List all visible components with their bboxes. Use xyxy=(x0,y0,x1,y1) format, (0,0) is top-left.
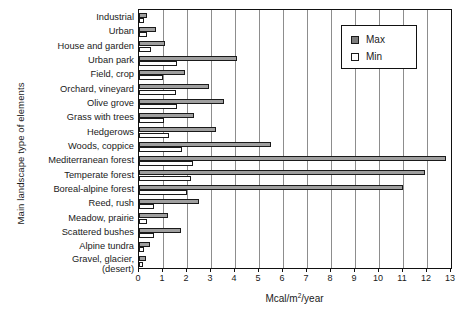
bar-min xyxy=(139,176,191,181)
bar-min xyxy=(139,75,163,80)
bar-min xyxy=(139,233,154,238)
x-tick-label: 10 xyxy=(366,273,390,283)
x-axis-title-text: Mcal/m2/year xyxy=(265,293,323,304)
x-tick xyxy=(354,268,355,272)
x-axis: 012345678910111213 xyxy=(138,268,451,290)
category-label: Industrial xyxy=(16,12,134,22)
category-label-line: Meadow, prairie xyxy=(68,213,134,223)
bar-max xyxy=(139,70,185,75)
legend-item-min: Min xyxy=(351,48,416,65)
bar-max xyxy=(139,156,446,161)
bar-max xyxy=(139,142,271,147)
x-tick-label: 7 xyxy=(294,273,318,283)
category-label: Gravel, glacier,(desert) xyxy=(16,254,134,274)
legend-label-max: Max xyxy=(366,34,385,45)
bar-max xyxy=(139,228,181,233)
category-label: Boreal-alpine forest xyxy=(16,184,134,194)
bar-min xyxy=(139,161,193,166)
x-tick xyxy=(186,268,187,272)
x-tick-label: 6 xyxy=(270,273,294,283)
category-label-line: Alpine tundra xyxy=(79,241,134,251)
bar-min xyxy=(139,133,169,138)
category-label-line: (desert) xyxy=(16,264,134,274)
x-tick xyxy=(306,268,307,272)
bar-min xyxy=(139,32,147,37)
bar-max xyxy=(139,56,237,61)
x-tick xyxy=(426,268,427,272)
category-label-line: House and garden xyxy=(58,41,135,51)
category-label: Orchard, vineyard xyxy=(16,84,134,94)
category-label-line: Temperate forest xyxy=(64,170,134,180)
category-label-line: Woods, coppice xyxy=(68,141,134,151)
bar-min xyxy=(139,90,176,95)
x-tick xyxy=(234,268,235,272)
bar-min xyxy=(139,219,147,224)
x-tick xyxy=(258,268,259,272)
x-tick-label: 1 xyxy=(150,273,174,283)
x-tick-label: 13 xyxy=(438,273,462,283)
x-tick xyxy=(138,268,139,272)
bar-min xyxy=(139,247,144,252)
x-tick-label: 4 xyxy=(222,273,246,283)
x-axis-title: Mcal/m2/year xyxy=(138,292,451,304)
category-label: Urban park xyxy=(16,55,134,65)
bar-max xyxy=(139,213,168,218)
x-tick-label: 3 xyxy=(198,273,222,283)
bar-max xyxy=(139,242,150,247)
category-label-line: Reed, rush xyxy=(89,198,134,208)
x-tick xyxy=(282,268,283,272)
bar-max xyxy=(139,84,209,89)
category-label: Mediterranean forest xyxy=(16,155,134,165)
x-tick-label: 11 xyxy=(390,273,414,283)
x-tick xyxy=(330,268,331,272)
bar-min xyxy=(139,47,151,52)
category-label-line: Field, crop xyxy=(91,69,134,79)
bar-min xyxy=(139,262,143,267)
category-label-line: Orchard, vineyard xyxy=(60,84,134,94)
legend: Max Min xyxy=(341,25,417,69)
category-label: Woods, coppice xyxy=(16,141,134,151)
category-label-line: Urban park xyxy=(88,55,134,65)
bar-max xyxy=(139,256,146,261)
category-label-line: Scattered bushes xyxy=(62,227,134,237)
category-label: Urban xyxy=(16,26,134,36)
x-tick xyxy=(210,268,211,272)
category-label: House and garden xyxy=(16,41,134,51)
category-label-line: Boreal-alpine forest xyxy=(53,184,134,194)
category-label: Field, crop xyxy=(16,69,134,79)
category-label: Scattered bushes xyxy=(16,227,134,237)
category-label: Alpine tundra xyxy=(16,241,134,251)
category-label: Reed, rush xyxy=(16,198,134,208)
category-label: Grass with trees xyxy=(16,112,134,122)
category-label-line: Industrial xyxy=(96,12,134,22)
x-tick-label: 2 xyxy=(174,273,198,283)
min-swatch-icon xyxy=(351,53,359,61)
x-tick xyxy=(378,268,379,272)
bar-max xyxy=(139,13,147,18)
bar-min xyxy=(139,18,144,23)
bar-max xyxy=(139,199,199,204)
max-swatch-icon xyxy=(351,36,359,44)
category-label-line: Urban xyxy=(109,26,134,36)
category-label-line: Grass with trees xyxy=(67,112,134,122)
bar-min xyxy=(139,204,154,209)
x-tick-label: 12 xyxy=(414,273,438,283)
category-label-line: Olive grove xyxy=(87,98,134,108)
category-label: Temperate forest xyxy=(16,170,134,180)
legend-item-max: Max xyxy=(351,31,416,48)
bar-min xyxy=(139,147,182,152)
x-tick xyxy=(162,268,163,272)
bar-min xyxy=(139,61,177,66)
x-tick xyxy=(402,268,403,272)
x-tick-label: 8 xyxy=(318,273,342,283)
category-label-line: Mediterranean forest xyxy=(48,155,134,165)
x-tick-label: 5 xyxy=(246,273,270,283)
category-label-column: IndustrialUrbanHouse and gardenUrban par… xyxy=(16,9,134,267)
category-label: Olive grove xyxy=(16,98,134,108)
bar-max xyxy=(139,113,194,118)
x-tick-label: 9 xyxy=(342,273,366,283)
bar-max xyxy=(139,41,165,46)
bar-min xyxy=(139,118,164,123)
x-tick-label: 0 xyxy=(126,273,150,283)
category-label: Meadow, prairie xyxy=(16,213,134,223)
